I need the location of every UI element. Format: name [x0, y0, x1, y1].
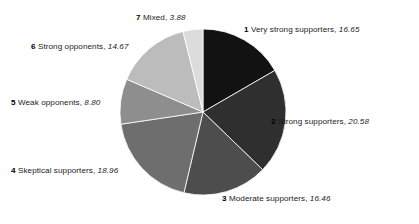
pie-label-name-6: Strong opponents	[38, 42, 103, 51]
pie-label-value-7: 3.88	[170, 13, 186, 22]
pie-label-index-7: 7	[136, 13, 141, 22]
pie-label-1: 1 Very strong supporters, 16.65	[244, 25, 360, 34]
pie-label-value-2: 20.58	[348, 117, 369, 126]
pie-label-name-1: Very strong supporters	[251, 25, 334, 34]
pie-chart: 1 Very strong supporters, 16.65 2 Strong…	[0, 0, 419, 224]
pie-label-5: 5 Weak opponents, 8.80	[11, 98, 100, 107]
pie-label-4: 4 Skeptical supporters, 18.96	[11, 166, 118, 175]
pie-label-2: 2 Strong supporters, 20.58	[271, 117, 369, 126]
pie-label-index-1: 1	[244, 25, 249, 34]
pie-label-value-4: 18.96	[98, 166, 119, 175]
pie-label-value-5: 8.80	[84, 98, 100, 107]
pie-label-index-6: 6	[31, 42, 36, 51]
pie-label-name-7: Mixed	[143, 13, 165, 22]
pie-slice-group	[120, 29, 286, 195]
pie-label-7: 7 Mixed, 3.88	[136, 13, 186, 22]
pie-label-value-3: 16.46	[310, 194, 331, 203]
pie-label-name-4: Skeptical supporters	[18, 166, 93, 175]
pie-label-index-3: 3	[222, 194, 227, 203]
pie-label-index-4: 4	[11, 166, 16, 175]
pie-label-3: 3 Moderate supporters, 16.46	[222, 194, 331, 203]
pie-label-name-2: Strong supporters	[278, 117, 344, 126]
pie-label-name-3: Moderate supporters	[229, 194, 305, 203]
pie-label-6: 6 Strong opponents, 14.67	[31, 42, 128, 51]
pie-label-value-1: 16.65	[339, 25, 360, 34]
pie-label-index-5: 5	[11, 98, 16, 107]
pie-label-name-5: Weak opponents	[18, 98, 80, 107]
pie-label-value-6: 14.67	[108, 42, 129, 51]
pie-label-index-2: 2	[271, 117, 276, 126]
